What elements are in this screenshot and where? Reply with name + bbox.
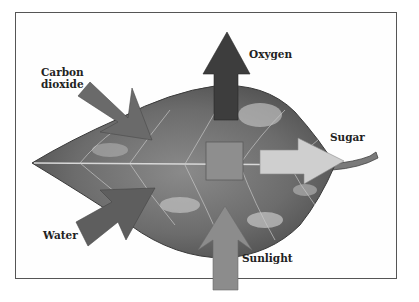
- label-sunlight: Sunlight: [242, 252, 293, 264]
- label-carbon-dioxide-line2: dioxide: [41, 78, 84, 90]
- photosynthesis-illustration: [0, 0, 419, 302]
- label-sugar: Sugar: [330, 131, 365, 143]
- carbon-dioxide-arrow: [78, 82, 152, 140]
- label-oxygen: Oxygen: [249, 48, 292, 60]
- label-carbon-dioxide: Carbon dioxide: [41, 66, 84, 90]
- label-carbon-dioxide-line1: Carbon: [41, 66, 84, 78]
- label-water: Water: [43, 229, 78, 241]
- center-reaction-square: [206, 142, 243, 180]
